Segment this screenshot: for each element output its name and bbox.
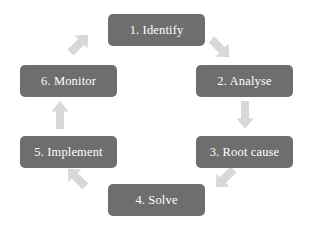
cycle-node-analyse[interactable]: 2. Analyse <box>196 65 293 97</box>
cycle-node-monitor[interactable]: 6. Monitor <box>20 65 117 97</box>
arrow-monitor-to-identify-icon <box>66 30 92 58</box>
cycle-node-solve[interactable]: 4. Solve <box>108 184 205 216</box>
cycle-node-identify[interactable]: 1. Identify <box>108 14 205 46</box>
cycle-node-analyse-label: 2. Analyse <box>217 75 271 88</box>
cycle-diagram: 1. Identify 2. Analyse 3. Root cause 4. … <box>0 0 311 226</box>
arrow-root-cause-to-solve-icon <box>212 164 238 192</box>
cycle-node-monitor-label: 6. Monitor <box>41 75 96 88</box>
cycle-node-root-cause-label: 3. Root cause <box>210 146 280 159</box>
cycle-node-root-cause[interactable]: 3. Root cause <box>196 136 293 168</box>
arrow-implement-to-monitor-icon <box>49 100 71 130</box>
cycle-node-identify-label: 1. Identify <box>130 24 184 37</box>
arrow-solve-to-implement-icon <box>64 164 90 192</box>
cycle-node-solve-label: 4. Solve <box>135 194 177 207</box>
cycle-node-implement-label: 5. Implement <box>34 146 102 159</box>
cycle-node-implement[interactable]: 5. Implement <box>20 136 117 168</box>
arrow-analyse-to-root-cause-icon <box>234 100 256 130</box>
arrow-identify-to-analyse-icon <box>207 34 233 62</box>
